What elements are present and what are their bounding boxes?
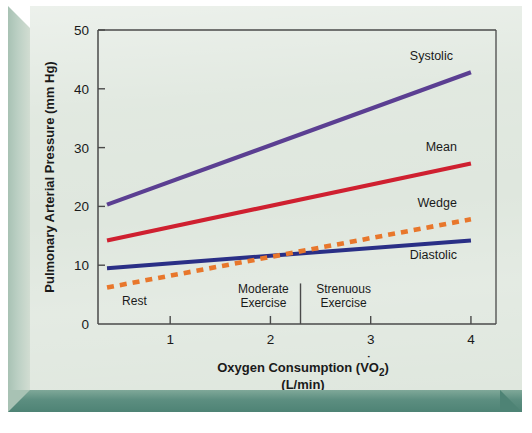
moderate-zone: ModerateExercise <box>238 282 289 310</box>
frame-corner-bottom-right <box>500 390 522 412</box>
x-tick-label: 4 <box>467 332 475 347</box>
x-axis: 1234 <box>166 316 475 347</box>
y-tick-label: 20 <box>74 199 89 214</box>
rest-zone: Rest <box>122 294 147 308</box>
frame-corner-top-left <box>8 6 30 28</box>
frame-bevel-bottom <box>8 390 522 412</box>
frame-corner-bottom-left <box>8 390 30 412</box>
y-axis-title: Pulmonary Arterial Pressure (mm Hg) <box>42 61 57 292</box>
series-label-mean: Mean <box>426 140 457 154</box>
strenuous-zone: StrenuousExercise <box>316 282 371 310</box>
series-line-systolic <box>107 72 471 204</box>
series-label-diastolic: Diastolic <box>410 248 457 262</box>
axis-frame <box>98 30 496 324</box>
line-chart: 01020304050 1234 RestModerateExerciseStr… <box>30 6 522 390</box>
x-axis-title: Oxygen Consumption (V̇O2) <box>217 355 389 378</box>
series-label-systolic: Systolic <box>410 49 453 63</box>
y-tick-label: 30 <box>74 141 89 156</box>
y-tick-label: 10 <box>74 258 89 273</box>
axis-titles: Pulmonary Arterial Pressure (mm Hg)Oxyge… <box>42 61 389 390</box>
zone-annotations: RestModerateExerciseStrenuousExercise <box>122 282 371 324</box>
x-tick-label: 1 <box>166 332 174 347</box>
beveled-frame: 01020304050 1234 RestModerateExerciseStr… <box>8 6 522 412</box>
x-tick-label: 3 <box>367 332 375 347</box>
y-axis: 01020304050 <box>74 23 105 332</box>
series-label-wedge: Wedge <box>418 196 457 210</box>
figure-container: 01020304050 1234 RestModerateExerciseStr… <box>0 0 532 433</box>
x-axis-title-units: (L/min) <box>281 377 324 390</box>
frame-bevel-left <box>8 6 30 412</box>
y-tick-label: 50 <box>74 23 89 38</box>
y-tick-label: 40 <box>74 82 89 97</box>
chart-card: 01020304050 1234 RestModerateExerciseStr… <box>30 6 522 390</box>
y-tick-label: 0 <box>81 317 89 332</box>
x-tick-label: 2 <box>267 332 275 347</box>
